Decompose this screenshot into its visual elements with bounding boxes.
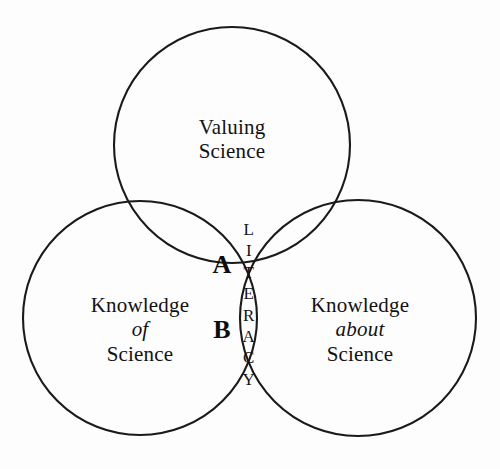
literacy-letter-1: I: [236, 240, 262, 261]
label-valuing-science-line1: Valuing: [0, 115, 464, 139]
venn-diagram: Valuing Science Knowledge of Science Kno…: [0, 0, 500, 469]
literacy-letter-5: A: [236, 326, 262, 347]
label-knowledge-of-science-line3: Science: [24, 342, 256, 366]
label-knowledge-of-science-line1: Knowledge: [24, 293, 256, 317]
label-valuing-science: Valuing Science: [0, 115, 464, 164]
literacy-letter-2: T: [236, 262, 262, 283]
literacy-letter-6: C: [236, 347, 262, 368]
literacy-letter-0: L: [236, 219, 262, 240]
label-knowledge-about-science-line1: Knowledge: [244, 293, 476, 317]
region-marker-b: B: [209, 317, 235, 343]
label-valuing-science-line2: Science: [0, 139, 464, 163]
literacy-letter-3: E: [236, 283, 262, 304]
region-marker-a: A: [209, 252, 235, 278]
literacy-letter-4: R: [236, 305, 262, 326]
label-knowledge-about-science-line2: about: [244, 317, 476, 341]
label-knowledge-about-science-line3: Science: [244, 342, 476, 366]
literacy-vertical-label: L I T E R A C Y: [236, 219, 262, 390]
literacy-letter-7: Y: [236, 369, 262, 390]
label-knowledge-about-science: Knowledge about Science: [244, 293, 476, 366]
